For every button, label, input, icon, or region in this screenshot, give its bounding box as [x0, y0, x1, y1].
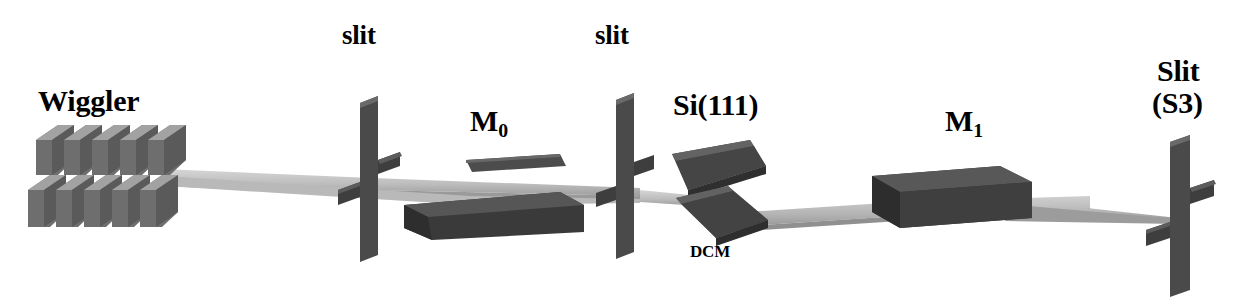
label-slit-s3-line1: Slit — [1157, 56, 1200, 87]
slit-2 — [596, 93, 654, 259]
label-m1: M1 — [945, 106, 983, 140]
label-m0-subscript: 0 — [498, 119, 508, 141]
label-m0: M0 — [470, 106, 508, 140]
dcm-crystal-2 — [676, 186, 768, 246]
wiggler-row-lower — [28, 175, 178, 227]
label-m0-text: M — [470, 104, 498, 137]
wiggler-row-upper — [36, 125, 186, 175]
wiggler-magnet-array — [28, 125, 186, 227]
label-si111: Si(111) — [673, 90, 758, 121]
label-dcm: DCM — [690, 243, 730, 260]
beamline-diagram: Wiggler slit M0 slit Si(111) DCM M1 Slit… — [0, 0, 1237, 305]
label-slit-2: slit — [595, 22, 629, 50]
dcm-monochromator — [672, 140, 768, 246]
mirror-m1 — [872, 166, 1032, 228]
label-m1-text: M — [945, 104, 973, 137]
label-slit-s3-line2: (S3) — [1152, 88, 1203, 119]
label-m1-subscript: 1 — [973, 119, 983, 141]
label-slit-1: slit — [342, 22, 376, 50]
label-wiggler: Wiggler — [38, 86, 139, 117]
